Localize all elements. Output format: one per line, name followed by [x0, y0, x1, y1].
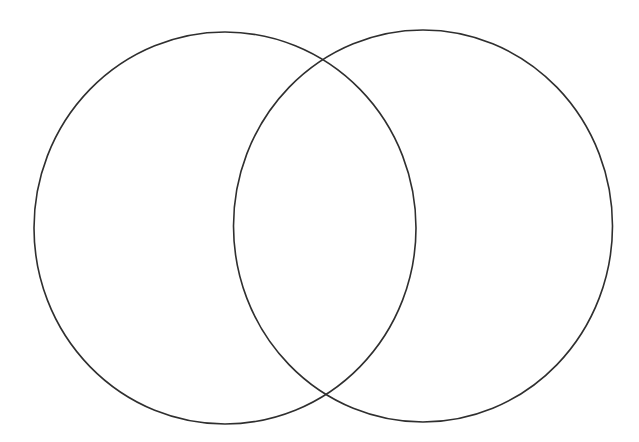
venn-diagram	[0, 0, 639, 442]
diagram-background	[0, 0, 639, 442]
